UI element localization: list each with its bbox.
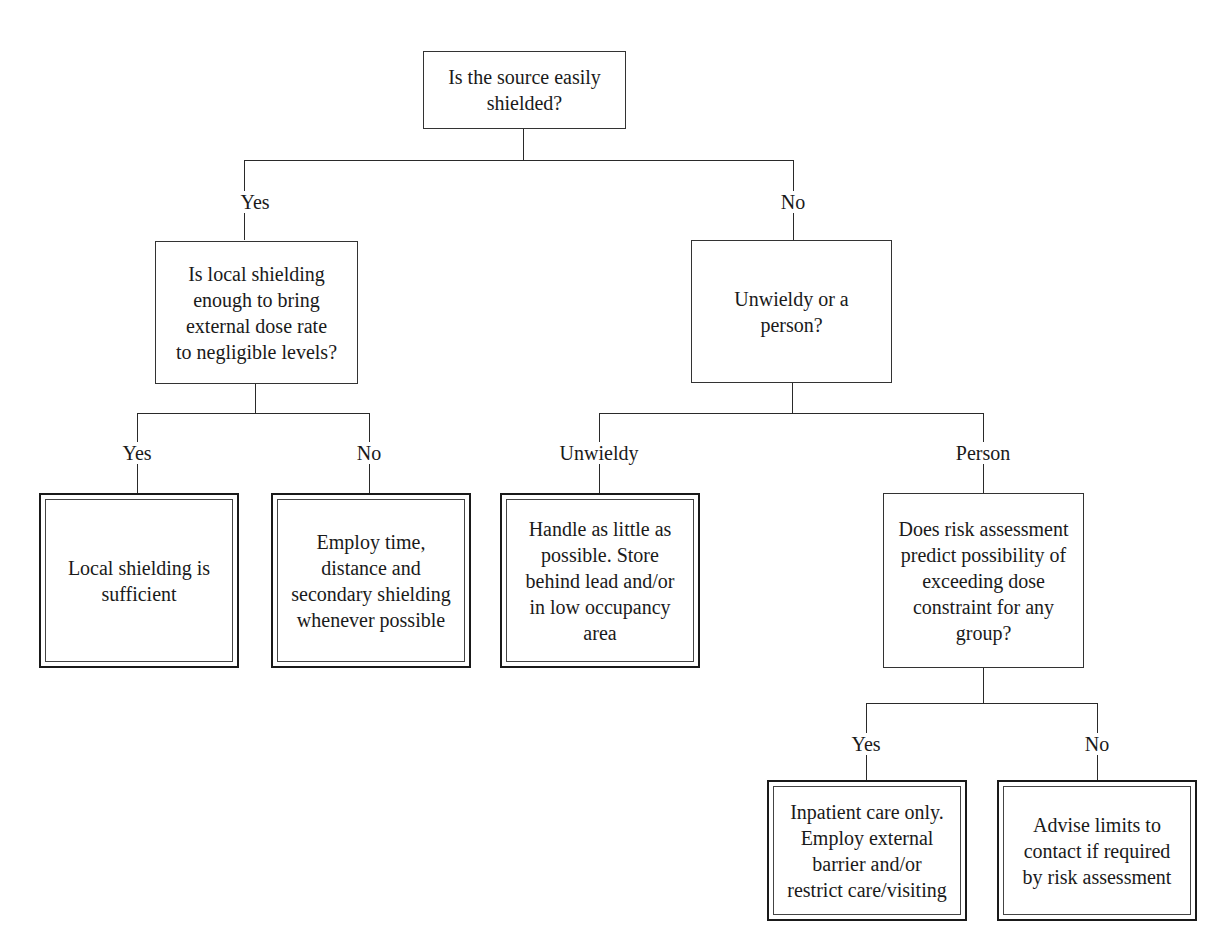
node-text: Does risk assessment predict possibility… — [899, 516, 1069, 646]
connector — [244, 160, 794, 161]
node-text: Employ time, distance and secondary shie… — [291, 529, 450, 633]
edge-label-no: No — [779, 191, 807, 213]
edge-label-yes: Yes — [849, 733, 882, 755]
node-local-shielding-question: Is local shielding enough to bring exter… — [155, 241, 358, 384]
node-handle-little: Handle as little as possible. Store behi… — [500, 493, 700, 668]
node-text: Handle as little as possible. Store behi… — [526, 516, 675, 646]
edge-label-no: No — [1083, 733, 1111, 755]
edge-label-person: Person — [954, 442, 1012, 464]
connector — [792, 383, 793, 414]
node-text: Unwieldy or a person? — [734, 286, 848, 338]
node-advise-limits: Advise limits to contact if required by … — [997, 780, 1197, 921]
node-risk-question: Does risk assessment predict possibility… — [883, 493, 1084, 668]
node-unwieldy-question: Unwieldy or a person? — [691, 240, 892, 383]
node-text: Advise limits to contact if required by … — [1023, 812, 1172, 890]
connector — [523, 129, 524, 161]
node-local-sufficient: Local shielding is sufficient — [39, 493, 239, 668]
connector — [255, 384, 256, 414]
node-employ-time: Employ time, distance and secondary shie… — [271, 493, 471, 668]
connector — [983, 668, 984, 704]
edge-label-unwieldy: Unwieldy — [558, 442, 641, 464]
connector — [866, 703, 1098, 704]
edge-label-yes: Yes — [238, 191, 271, 213]
node-text: Is local shielding enough to bring exter… — [176, 261, 337, 365]
edge-label-yes: Yes — [120, 442, 153, 464]
node-root-question: Is the source easily shielded? — [423, 51, 626, 129]
connector — [137, 413, 370, 414]
node-inpatient-care: Inpatient care only. Employ external bar… — [767, 780, 967, 921]
node-text: Is the source easily shielded? — [448, 64, 601, 116]
node-text: Inpatient care only. Employ external bar… — [787, 799, 946, 903]
node-text: Local shielding is sufficient — [68, 555, 210, 607]
edge-label-no: No — [355, 442, 383, 464]
connector — [599, 413, 984, 414]
